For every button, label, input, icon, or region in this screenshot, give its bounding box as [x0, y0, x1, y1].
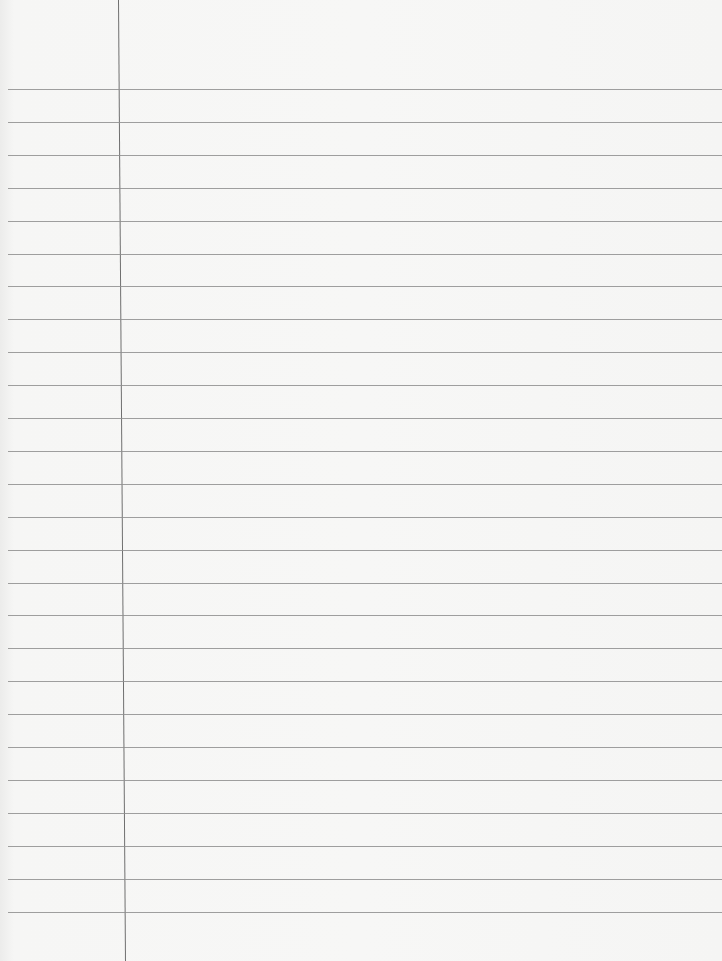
ruled-line [8, 583, 722, 584]
ruled-line [8, 780, 722, 781]
ruled-line [8, 879, 722, 880]
ruled-line [8, 714, 722, 715]
ruled-line [8, 286, 722, 287]
ruled-line [8, 648, 722, 649]
ruled-line [8, 550, 722, 551]
margin-line [118, 0, 126, 961]
ruled-line [8, 846, 722, 847]
ruled-line [8, 418, 722, 419]
ruled-line [8, 122, 722, 123]
ruled-line [8, 615, 722, 616]
ruled-line [8, 319, 722, 320]
ruled-line [8, 484, 722, 485]
ruled-line [8, 221, 722, 222]
ruled-line [8, 681, 722, 682]
ruled-line [8, 747, 722, 748]
ruled-line [8, 451, 722, 452]
ruled-line [8, 517, 722, 518]
ruled-line [8, 912, 722, 913]
ruled-line [8, 813, 722, 814]
ruled-line [8, 155, 722, 156]
ruled-line [8, 352, 722, 353]
lined-paper-page [0, 0, 722, 961]
ruled-line [8, 385, 722, 386]
ruled-line [8, 188, 722, 189]
ruled-line [8, 254, 722, 255]
ruled-line [8, 89, 722, 90]
